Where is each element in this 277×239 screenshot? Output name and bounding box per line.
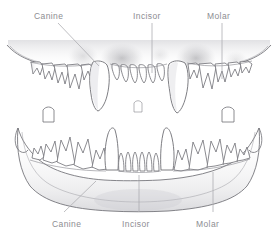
label-canine-bottom: Canine [52,219,81,229]
label-molar-top: Molar [207,11,230,21]
lower-right-canine-tip-upper [222,107,234,122]
chin-shading [94,189,182,211]
label-incisor-bottom: Incisor [122,219,150,229]
lower-jaw [15,101,262,212]
upper-right-molars [188,61,252,89]
jaw-dentition-figure: Canine Incisor Molar Canine Incisor Mola… [0,0,277,239]
lower-left-canine [105,128,118,170]
label-canine-top: Canine [34,11,63,21]
lower-left-canine-tip-upper [43,107,54,122]
label-incisor-top: Incisor [133,11,161,21]
mid-tooth-tip [134,101,142,112]
lower-right-canine [161,128,174,170]
lower-incisors [119,152,159,171]
label-molar-bottom: Molar [196,219,219,229]
jaw-illustration-svg [0,0,277,239]
